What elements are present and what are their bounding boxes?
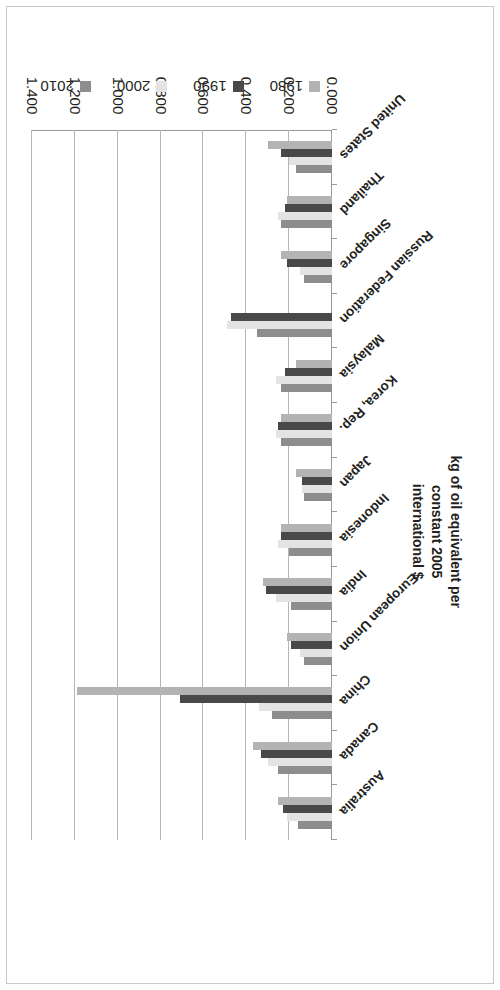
legend-swatch-icon [309, 81, 320, 92]
bar [285, 204, 332, 212]
value-axis-tick-label: 1.400 [24, 61, 41, 131]
bar [278, 797, 332, 805]
plot-area [32, 130, 332, 840]
bar [281, 251, 332, 259]
bar-group [32, 524, 332, 556]
bar [287, 813, 332, 821]
value-axis-tick-label: 0.000 [324, 61, 341, 131]
chart-area: kg of oil equivalent per constant 2005in… [0, 0, 500, 990]
value-axis-tick-label: 0.200 [281, 61, 298, 131]
bar [261, 750, 332, 758]
bar [281, 414, 332, 422]
bar [259, 703, 332, 711]
legend-label: 1980 [270, 78, 303, 95]
bar [278, 766, 332, 774]
category-tick [332, 784, 337, 785]
bar [268, 141, 332, 149]
rotated-chart-wrapper: kg of oil equivalent per constant 2005in… [0, 0, 500, 990]
legend-label: 1990 [193, 78, 226, 95]
value-axis-tick-label: 0.800 [152, 61, 169, 131]
legend-label: 2000 [117, 78, 150, 95]
bar [278, 422, 332, 430]
category-tick [332, 238, 337, 239]
bar [283, 805, 332, 813]
bar [278, 540, 332, 548]
category-tick [332, 347, 337, 348]
bar [298, 821, 332, 829]
bar [285, 368, 332, 376]
category-tick [332, 457, 337, 458]
legend-swatch-icon [156, 81, 167, 92]
value-axis-tick-label: 1.000 [109, 61, 126, 131]
bar [291, 641, 332, 649]
bar [287, 633, 332, 641]
bar [304, 275, 332, 283]
bar [77, 687, 332, 695]
bar [281, 524, 332, 532]
category-tick [332, 839, 337, 840]
bar [263, 578, 332, 586]
legend-swatch-icon [80, 81, 91, 92]
bar [278, 212, 332, 220]
bar-group [32, 633, 332, 665]
bar-group [32, 141, 332, 173]
category-tick [332, 621, 337, 622]
bar [281, 438, 332, 446]
legend-item[interactable]: 2000 [117, 78, 167, 95]
bar-group [32, 196, 332, 228]
bar-group [32, 251, 332, 283]
category-tick [332, 184, 337, 185]
bar [227, 321, 332, 329]
bar [296, 165, 332, 173]
bar-group [32, 578, 332, 610]
bar [302, 477, 332, 485]
category-tick [332, 511, 337, 512]
category-tick [332, 402, 337, 403]
bar [281, 149, 332, 157]
legend-item[interactable]: 2010 [41, 78, 91, 95]
bar [302, 485, 332, 493]
bar-group [32, 360, 332, 392]
bar [296, 360, 332, 368]
category-tick [332, 675, 337, 676]
bar [272, 711, 332, 719]
legend-swatch-icon [233, 81, 244, 92]
bar [276, 594, 332, 602]
category-tick [332, 293, 337, 294]
bar-group [32, 414, 332, 446]
bar [296, 469, 332, 477]
bar [253, 742, 332, 750]
category-axis-label: Australia [337, 695, 461, 819]
bar-group [32, 742, 332, 774]
value-axis-tick-label: 0.400 [238, 61, 255, 131]
bar [287, 259, 332, 267]
legend-label: 2010 [41, 78, 74, 95]
bar [287, 196, 332, 204]
bar [289, 157, 332, 165]
bar [180, 695, 332, 703]
chart-page: kg of oil equivalent per constant 2005in… [0, 0, 500, 990]
bar [304, 493, 332, 501]
category-tick [332, 730, 337, 731]
bar [266, 586, 332, 594]
bar [300, 649, 332, 657]
bar [304, 657, 332, 665]
bar [231, 313, 332, 321]
bar [281, 532, 332, 540]
value-axis-tick-label: 1.200 [66, 61, 83, 131]
legend-item[interactable]: 1990 [193, 78, 243, 95]
bar [276, 430, 332, 438]
bar [291, 602, 332, 610]
bar [257, 329, 332, 337]
value-axis-tick-label: 0.600 [195, 61, 212, 131]
bar-group [32, 687, 332, 719]
bar [281, 384, 332, 392]
bar-group [32, 305, 332, 337]
bar [300, 267, 332, 275]
bar [289, 548, 332, 556]
bar [281, 220, 332, 228]
bar-group [32, 797, 332, 829]
bar [276, 376, 332, 384]
bar-group [32, 469, 332, 501]
legend-item[interactable]: 1980 [270, 78, 320, 95]
